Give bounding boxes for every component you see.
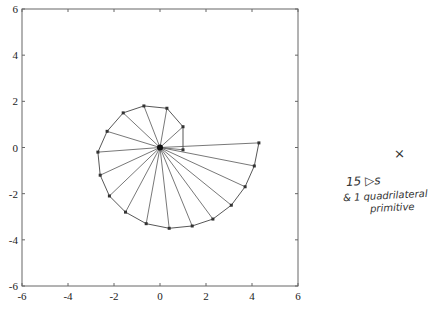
spoke-line [123, 113, 160, 148]
y-tick-label: -4 [9, 234, 19, 246]
spoke-line [126, 148, 161, 213]
vertex-marker [182, 125, 185, 128]
vertex-marker [99, 174, 102, 177]
vertex-marker [142, 104, 145, 107]
annotation-line-1: 15 ▷s [346, 175, 381, 188]
spiral-outline [98, 106, 259, 228]
spoke-line [160, 148, 213, 220]
y-tick-label: 4 [13, 49, 19, 61]
vertex-marker [122, 111, 125, 114]
vertex-marker [145, 222, 148, 225]
vertex-marker [165, 107, 168, 110]
x-tick-label: 6 [295, 290, 301, 302]
spoke-line [144, 106, 160, 148]
x-tick-label: 2 [203, 290, 209, 302]
x-tick-label: 0 [157, 290, 163, 302]
spoke-line [160, 148, 231, 206]
vertex-marker [191, 224, 194, 227]
vertex-marker [182, 148, 185, 151]
vertex-marker [96, 151, 99, 154]
spoke-line [160, 143, 259, 148]
y-tick-label: 2 [13, 95, 19, 107]
annotation-mark: × [394, 148, 405, 160]
vertex-marker [168, 227, 171, 230]
x-tick-label: -2 [109, 290, 118, 302]
annotation-line-3: primitive [370, 201, 415, 214]
vertex-marker [244, 185, 247, 188]
y-tick-label: 0 [13, 142, 19, 154]
spoke-line [160, 108, 167, 147]
x-tick-label: -6 [17, 290, 27, 302]
x-tick-label: 4 [249, 290, 255, 302]
vertex-marker [106, 130, 109, 133]
plot-area: -6-4-20246-6-4-20246 [0, 0, 440, 315]
y-tick-label: -2 [9, 188, 18, 200]
vertex-marker [211, 218, 214, 221]
y-tick-label: 6 [13, 3, 19, 15]
spoke-line [160, 148, 245, 187]
vertex-marker [124, 211, 127, 214]
center-marker [157, 145, 163, 151]
vertex-marker [253, 164, 256, 167]
spoke-line [107, 131, 160, 147]
vertex-marker [257, 141, 260, 144]
vertex-marker [230, 204, 233, 207]
y-tick-label: -6 [9, 280, 19, 292]
spoke-line [160, 148, 254, 166]
x-tick-label: -4 [63, 290, 73, 302]
vertex-marker [108, 194, 111, 197]
